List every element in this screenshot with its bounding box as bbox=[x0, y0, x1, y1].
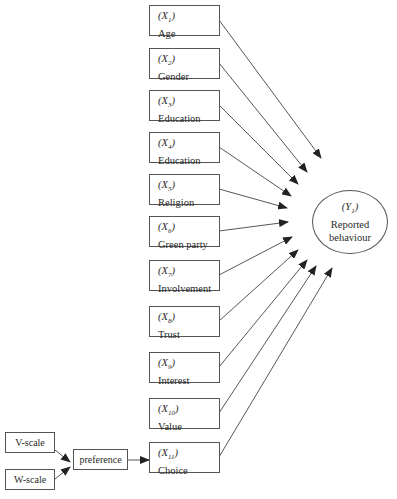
preference-box: preference bbox=[73, 449, 128, 470]
outcome-label-line1: Reported bbox=[331, 218, 370, 231]
arrow-x6-y1 bbox=[219, 222, 288, 231]
predictor-box-x11: (X11) Choice bbox=[149, 442, 220, 473]
predictor-box-x10: (X10) Value bbox=[149, 398, 220, 429]
variable-symbol: (X9) bbox=[158, 356, 219, 374]
predictor-box-x1: (X1) Age bbox=[149, 5, 220, 36]
outcome-label-line2: behaviour bbox=[329, 231, 371, 244]
predictor-label: Involvement bbox=[158, 282, 219, 295]
predictor-label: Religion bbox=[158, 196, 219, 209]
variable-symbol: (X7) bbox=[158, 264, 219, 282]
arrow-x5-y1 bbox=[219, 189, 287, 208]
arrow-x10-y1 bbox=[219, 266, 316, 413]
predictor-label: Trust bbox=[158, 328, 219, 341]
predictor-box-x6: (X6) Green party bbox=[149, 216, 220, 247]
variable-symbol: (X2) bbox=[158, 52, 219, 70]
arrow-x11-y1 bbox=[219, 268, 332, 457]
predictor-box-x7: (X7) Involvement bbox=[149, 260, 220, 291]
arrow-x4-y1 bbox=[219, 147, 291, 196]
variable-symbol: (X3) bbox=[158, 94, 219, 112]
predictor-box-x8: (X8) Trust bbox=[149, 306, 220, 337]
outcome-ellipse-y1: (Y1) Reported behaviour bbox=[312, 190, 388, 254]
arrow-x9-y1 bbox=[219, 260, 307, 367]
arrow-wscale-preference bbox=[55, 467, 70, 479]
predictor-label: Gender bbox=[158, 70, 219, 83]
variable-symbol: (X11) bbox=[158, 446, 219, 464]
predictor-box-x4: (X4) Education bbox=[149, 132, 220, 163]
v-scale-box: V-scale bbox=[5, 432, 55, 453]
variable-symbol: (X10) bbox=[158, 402, 219, 420]
variable-symbol: (X8) bbox=[158, 310, 219, 328]
predictor-label: Choice bbox=[158, 464, 219, 477]
variable-symbol: (Y1) bbox=[342, 200, 358, 218]
arrow-x1-y1 bbox=[219, 20, 321, 158]
arrow-x7-y1 bbox=[219, 237, 292, 275]
arrow-vscale-preference bbox=[55, 450, 70, 462]
predictor-label: Education bbox=[158, 154, 219, 167]
variable-symbol: (X6) bbox=[158, 220, 219, 238]
predictor-label: Green party bbox=[158, 238, 219, 251]
predictor-box-x2: (X2) Gender bbox=[149, 48, 220, 79]
predictor-label: Education bbox=[158, 112, 219, 125]
predictor-label: Value bbox=[158, 420, 219, 433]
variable-symbol: (X4) bbox=[158, 136, 219, 154]
w-scale-box: W-scale bbox=[5, 469, 55, 490]
variable-symbol: (X1) bbox=[158, 9, 219, 27]
predictor-label: Interest bbox=[158, 374, 219, 387]
variable-symbol: (X5) bbox=[158, 178, 219, 196]
arrow-x3-y1 bbox=[219, 105, 298, 184]
predictor-box-x5: (X5) Religion bbox=[149, 174, 220, 205]
predictor-box-x3: (X3) Education bbox=[149, 90, 220, 121]
predictor-box-x9: (X9) Interest bbox=[149, 352, 220, 383]
predictor-label: Age bbox=[158, 27, 219, 40]
